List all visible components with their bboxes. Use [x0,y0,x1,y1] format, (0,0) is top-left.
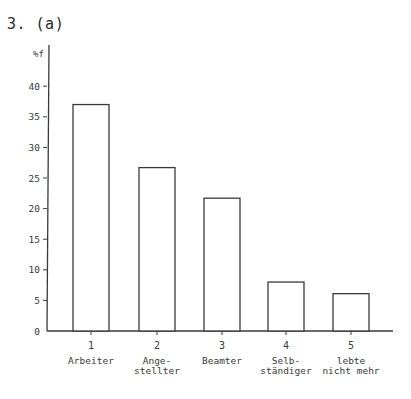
x-tick-label: 4 [283,340,289,351]
bar-chart: %f0510152025303540 1Arbeiter2Ange-stellt… [0,0,411,399]
y-tick-label: 25 [29,173,40,184]
x-axis-labels: 1Arbeiter2Ange-stellter3Beamter4Selb-stä… [68,331,380,376]
y-tick-label: 10 [29,264,41,275]
category-label: Arbeiter [68,355,114,366]
bar-4 [268,282,304,331]
bar-1 [73,105,109,331]
y-tick-label: 20 [29,203,41,214]
category-label: ständiger [260,365,312,376]
y-tick-label: 40 [29,81,41,92]
category-label: stellter [134,365,180,376]
category-label: nicht mehr [322,365,379,376]
category-label: Beamter [202,355,242,366]
bars [73,105,369,331]
bar-2 [139,168,175,331]
x-tick-label: 3 [219,340,225,351]
bar-3 [204,198,240,331]
x-tick-label: 5 [348,340,354,351]
y-axis-label: %f [33,49,44,59]
y-tick-label: 5 [34,295,40,306]
x-tick-label: 2 [154,340,160,351]
bar-5 [333,294,369,331]
y-axis-line [47,45,49,331]
y-tick-label: 0 [34,326,40,337]
y-tick-label: 30 [29,142,41,153]
y-tick-label: 15 [29,234,40,245]
y-tick-label: 35 [29,111,40,122]
x-tick-label: 1 [88,340,94,351]
